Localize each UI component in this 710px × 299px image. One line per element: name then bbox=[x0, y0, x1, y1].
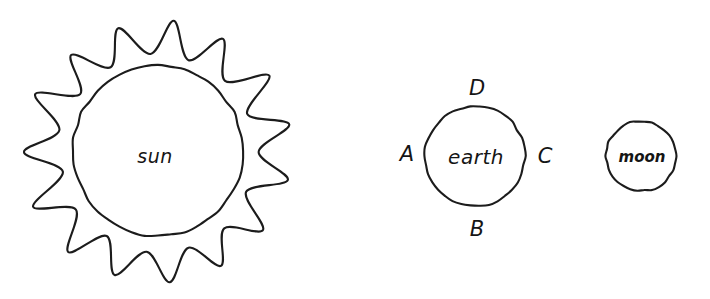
point-label-c: C bbox=[538, 144, 553, 168]
moon-label: moon bbox=[619, 148, 666, 166]
diagram-svg bbox=[0, 0, 710, 299]
sun-label: sun bbox=[137, 145, 172, 167]
diagram-canvas: sun earth moon A B C D bbox=[0, 0, 710, 299]
point-label-a: A bbox=[400, 142, 414, 166]
earth-label: earth bbox=[448, 145, 504, 169]
point-label-d: D bbox=[469, 76, 485, 100]
point-label-b: B bbox=[470, 217, 484, 241]
